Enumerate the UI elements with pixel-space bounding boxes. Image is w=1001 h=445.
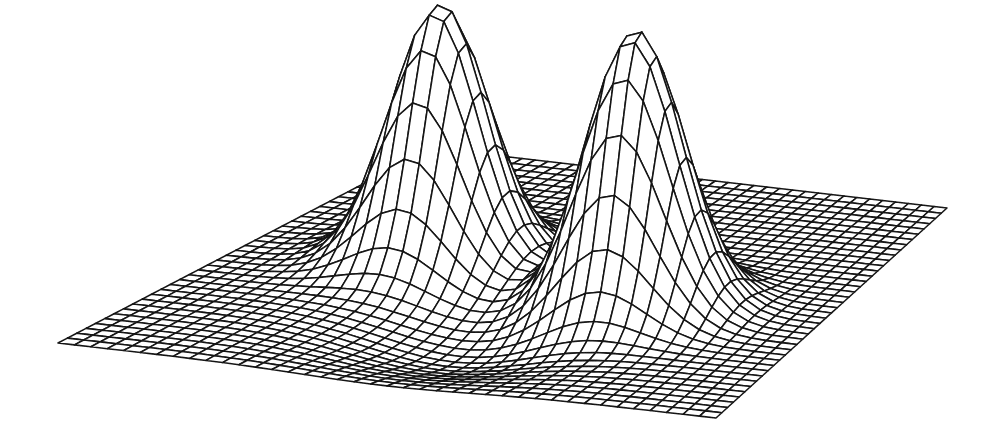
figure-container: [0, 0, 1001, 445]
surface-plot-canvas: [0, 0, 1001, 445]
